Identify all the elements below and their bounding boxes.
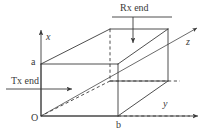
rx-annotation-arrow — [112, 17, 172, 43]
tx-end-label: Tx end — [11, 76, 39, 86]
y-axis-label: y — [163, 99, 167, 109]
height-dimension-label: a — [31, 57, 35, 67]
x-axis-label: x — [46, 32, 50, 42]
depth-edge-bottom-right — [118, 81, 168, 116]
waveguide-solid-edges — [41, 29, 168, 116]
coordinate-axes — [41, 28, 198, 116]
depth-edge-top-left — [41, 29, 110, 64]
rx-end-label: Rx end — [120, 3, 149, 13]
origin-label: O — [31, 113, 38, 123]
hidden-depth-edge-bottom-left — [41, 81, 110, 116]
waveguide-figure: x y z a b O Tx end Rx end — [0, 0, 210, 134]
z-axis-line — [41, 28, 197, 116]
z-axis-label: z — [186, 37, 190, 47]
waveguide-hidden-edges — [41, 29, 180, 116]
width-dimension-label: b — [116, 120, 121, 130]
